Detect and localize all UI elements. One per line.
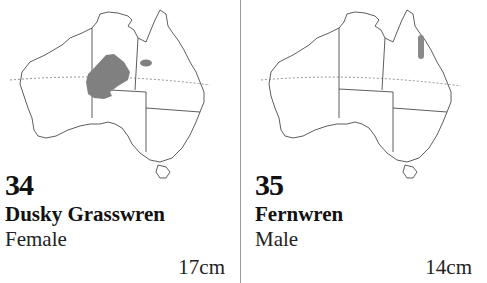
species-sex: Male <box>255 228 298 250</box>
range-shade <box>418 35 424 59</box>
entry-number: 34 <box>5 170 33 200</box>
australia-range-map-icon <box>0 0 240 200</box>
species-sex: Female <box>5 228 67 250</box>
entry-number: 35 <box>255 170 283 200</box>
species-size: 17cm <box>178 256 225 278</box>
species-entry-34: 34 Dusky Grasswren Female 17cm <box>0 0 240 283</box>
range-shade-small <box>140 60 152 67</box>
species-name: Fernwren <box>255 203 343 225</box>
species-size: 14cm <box>425 256 472 278</box>
range-shade-main <box>86 54 130 99</box>
species-entry-35: 35 Fernwren Male 14cm <box>241 0 487 283</box>
species-name: Dusky Grasswren <box>5 203 165 225</box>
